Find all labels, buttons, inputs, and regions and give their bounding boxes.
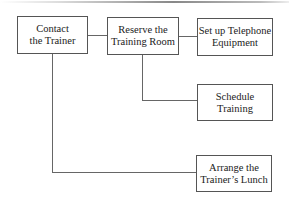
- node-set-up-telephone: Set up TelephoneEquipment: [197, 18, 273, 56]
- node-schedule-training: ScheduleTraining: [197, 84, 273, 121]
- connector-contact-reserve: [87, 35, 107, 36]
- node-label-line1: Set up Telephone: [199, 25, 272, 36]
- node-label-line1: Schedule: [216, 91, 255, 102]
- connector-contact-lunch-horizontal: [52, 172, 196, 173]
- node-label-line1: Arrange the: [209, 162, 259, 173]
- connector-reserve-schedule-horizontal: [142, 100, 197, 101]
- node-label-line2: the Trainer: [30, 35, 76, 46]
- node-label-line1: Reserve the: [118, 24, 167, 35]
- node-label-line2: Training Room: [111, 36, 175, 47]
- connector-contact-lunch-vertical: [52, 53, 53, 173]
- node-label-line2: Trainer’s Lunch: [200, 174, 267, 185]
- node-arrange-lunch: Arrange theTrainer’s Lunch: [196, 155, 272, 192]
- top-border: [0, 1, 289, 3]
- node-label-line2: Equipment: [212, 37, 258, 48]
- node-label-line1: Contact: [36, 23, 69, 34]
- node-label-line2: Training: [217, 103, 253, 114]
- connector-reserve-telephone: [178, 36, 197, 37]
- connector-reserve-schedule-vertical: [142, 54, 143, 101]
- node-reserve-training-room: Reserve theTraining Room: [107, 17, 179, 55]
- node-contact-trainer: Contactthe Trainer: [17, 16, 88, 54]
